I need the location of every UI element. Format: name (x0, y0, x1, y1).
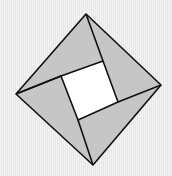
pinwheel-square-diagram (0, 0, 172, 176)
diagram-canvas (0, 0, 172, 176)
